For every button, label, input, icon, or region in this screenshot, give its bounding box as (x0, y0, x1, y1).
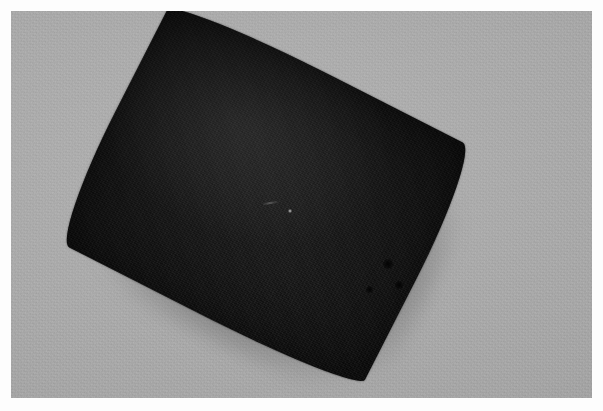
photo-frame (0, 0, 603, 411)
photograph-canvas (11, 11, 592, 398)
